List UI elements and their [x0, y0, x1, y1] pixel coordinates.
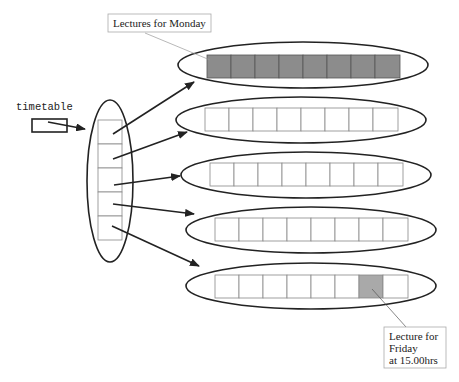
timetable-label: timetable [16, 101, 73, 113]
callout-friday-line-1: Lecture for [389, 330, 438, 342]
callout-friday-line-2: Friday [389, 342, 418, 354]
row-wednesday [181, 152, 431, 198]
row-pointer-arrows [112, 82, 199, 266]
highlighted-cell-friday-15 [359, 275, 383, 298]
outer-array-cells [98, 120, 122, 240]
row-friday [186, 263, 436, 309]
row-tuesday [176, 97, 426, 143]
callout-monday-text: Lectures for Monday [113, 17, 206, 29]
row-monday [178, 42, 428, 88]
timetable-diagram: timetable [0, 0, 459, 382]
callout-friday-line-3: at 15.00hrs [389, 354, 438, 366]
row-thursday [186, 207, 436, 253]
timetable-variable-box [32, 119, 67, 132]
